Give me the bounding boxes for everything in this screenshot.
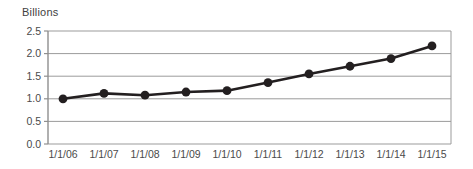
data-point-marker xyxy=(428,42,437,51)
line-chart-plot: 0.00.51.01.52.02.5 1/1/061/1/071/1/081/1… xyxy=(0,0,473,169)
x-tick-label: 1/1/10 xyxy=(212,148,241,160)
y-tick-labels-group: 0.00.51.01.52.02.5 xyxy=(26,25,41,150)
y-tick-label: 0.0 xyxy=(26,138,41,150)
x-tick-label: 1/1/12 xyxy=(294,148,323,160)
chart-container: Billions 0.00.51.01.52.02.5 1/1/061/1/07… xyxy=(0,0,473,169)
x-tick-labels-group: 1/1/061/1/071/1/081/1/091/1/101/1/111/1/… xyxy=(48,148,446,160)
data-point-marker xyxy=(182,88,191,97)
y-tick-label: 1.5 xyxy=(26,70,41,82)
data-point-marker xyxy=(346,62,355,71)
data-point-marker xyxy=(223,86,232,95)
data-point-marker xyxy=(100,89,109,98)
x-tick-label: 1/1/08 xyxy=(130,148,159,160)
x-tick-label: 1/1/06 xyxy=(48,148,77,160)
x-tick-label: 1/1/15 xyxy=(417,148,446,160)
y-tick-label: 2.5 xyxy=(26,25,41,37)
data-point-marker xyxy=(59,94,68,103)
y-tick-label: 1.0 xyxy=(26,92,41,104)
y-tick-label: 2.0 xyxy=(26,47,41,59)
x-tick-label: 1/1/14 xyxy=(376,148,405,160)
x-tick-label: 1/1/11 xyxy=(254,148,283,160)
data-point-marker xyxy=(141,91,150,100)
x-tick-label: 1/1/13 xyxy=(335,148,364,160)
x-tick-label: 1/1/07 xyxy=(89,148,118,160)
data-point-marker xyxy=(387,54,396,63)
data-point-marker xyxy=(305,70,314,79)
x-tick-label: 1/1/09 xyxy=(171,148,200,160)
data-point-marker xyxy=(264,78,273,87)
y-tick-label: 0.5 xyxy=(26,115,41,127)
